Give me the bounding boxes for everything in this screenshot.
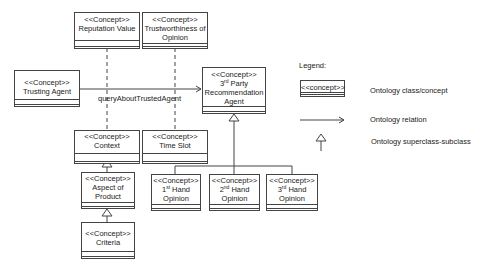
concept-second-hand-opinion[interactable]: <<Concept>> 2nd Hand Opinion	[209, 174, 260, 211]
divider	[82, 202, 134, 203]
stereotype-label: <<Concept>>	[82, 174, 134, 183]
divider	[210, 204, 259, 205]
divider	[143, 153, 207, 154]
divider	[75, 46, 139, 47]
divider	[75, 40, 139, 41]
stereotype-label: <<Concept>>	[210, 176, 259, 185]
stereotype-label: <<Concept>>	[143, 15, 207, 24]
stereotype-label: <<Concept>>	[75, 15, 139, 24]
concept-time-slot[interactable]: <<Concept>> Time Slot	[142, 130, 208, 164]
stereotype-label: <<Concept>>	[143, 132, 207, 141]
stereotype-label: <<Concept>>	[152, 176, 200, 185]
relation-label: queryAboutTrustedAgent	[98, 94, 181, 103]
divider	[203, 111, 265, 112]
concept-name-line2: Opinion	[152, 194, 200, 203]
concept-name-line2: Opinion	[267, 194, 317, 203]
divider	[267, 208, 317, 209]
stereotype-label: <<Concept>>	[15, 78, 79, 87]
divider	[75, 161, 139, 162]
divider	[301, 92, 344, 93]
concept-name-line2: Opinion	[210, 194, 259, 203]
concept-name-line1: 3rd Party	[203, 79, 265, 88]
divider	[143, 161, 207, 162]
concept-third-hand-opinion[interactable]: <<Concept>> 3rd Hand Opinion	[266, 174, 318, 211]
concept-name-line2: Opinion	[143, 33, 207, 42]
divider	[82, 251, 134, 252]
concept-name: Reputation Value	[75, 24, 139, 33]
divider	[82, 206, 134, 207]
stereotype-label: <<Concept>>	[75, 132, 139, 141]
legend-class-description: Ontology class/concept	[370, 86, 448, 95]
divider	[267, 204, 317, 205]
legend-relation-description: Ontology relation	[370, 115, 427, 124]
concept-aspect-of-product[interactable]: <<Concept>> Aspect of Product	[81, 172, 135, 209]
concept-trusting-agent[interactable]: <<Concept>> Trusting Agent	[14, 70, 80, 107]
concept-first-hand-opinion[interactable]: <<Concept>> 1st Hand Opinion	[151, 174, 201, 211]
legend-inheritance-description: Ontology superclass-subclass	[371, 137, 471, 146]
divider	[82, 256, 134, 257]
stereotype-label: <<Concept>>	[267, 176, 317, 185]
legend-concept-box: <<concept>>	[300, 80, 345, 97]
stereotype-label: <<Concept>>	[82, 229, 134, 238]
concept-name: Context	[75, 141, 139, 150]
divider	[143, 46, 207, 47]
legend-title: Legend:	[299, 61, 326, 70]
divider	[143, 43, 207, 44]
concept-criteria[interactable]: <<Concept>> Criteria	[81, 222, 135, 259]
divider	[15, 99, 79, 100]
divider	[75, 153, 139, 154]
concept-name-line1: 2nd Hand	[210, 185, 259, 194]
divider	[15, 104, 79, 105]
concept-name: Trusting Agent	[15, 87, 79, 96]
concept-name-line1: 3rd Hand	[267, 185, 317, 194]
divider	[210, 208, 259, 209]
divider	[301, 94, 344, 95]
concept-name-line1: 1st Hand	[152, 185, 200, 194]
concept-reputation-value[interactable]: <<Concept>> Reputation Value	[74, 12, 140, 49]
concept-context[interactable]: <<Concept>> Context	[74, 130, 140, 164]
divider	[152, 204, 200, 205]
concept-name: Time Slot	[143, 141, 207, 150]
divider	[203, 106, 265, 107]
concept-trustworthiness-of-opinion[interactable]: <<Concept>> Trustworthiness of Opinion	[142, 12, 208, 49]
divider	[152, 208, 200, 209]
stereotype-label: <<Concept>>	[203, 70, 265, 79]
concept-name: Criteria	[82, 238, 134, 247]
concept-name-line2: Product	[82, 192, 134, 201]
concept-name-line1: Aspect of	[82, 183, 134, 192]
concept-name-line2: Recommendation	[203, 88, 265, 97]
concept-name-line3: Agent	[203, 97, 265, 106]
concept-name-line1: Trustworthiness of	[143, 24, 207, 33]
concept-third-party-recommendation-agent[interactable]: <<Concept>> 3rd Party Recommendation Age…	[202, 67, 266, 114]
